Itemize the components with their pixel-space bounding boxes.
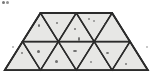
figure-canvas (0, 0, 152, 83)
triangle-grid-diagram (0, 0, 152, 83)
